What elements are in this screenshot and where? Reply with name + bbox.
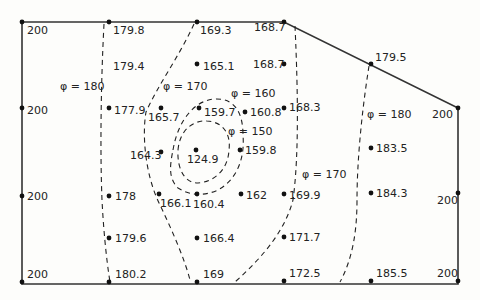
node-dot [369,62,374,67]
node-value-label: 178 [115,190,136,203]
node-dot [159,106,164,111]
node-dot [369,191,374,196]
contour-label: φ = 150 [228,125,272,138]
contour-label: φ = 170 [163,80,207,93]
node-value-label: 169.3 [200,24,232,37]
node-dot [195,236,200,241]
node-value-label: 169 [203,268,224,281]
node-dot [20,194,25,199]
node-dot [282,192,287,197]
node-value-label: 177.9 [114,104,146,117]
node-dot [238,148,243,153]
node-value-label: 164.3 [130,149,162,162]
node-value-label: 168.3 [289,101,321,114]
node-dot [20,280,25,285]
contour-label: φ = 180 [60,80,104,93]
node-dot [107,106,112,111]
node-dot [107,236,112,241]
node-dot [239,192,244,197]
node-dot [282,106,287,111]
node-value-label: 179.4 [113,60,145,73]
node-value-label: 179.5 [375,51,407,64]
node-dot [20,20,25,25]
node-dot [282,235,287,240]
node-dot [243,110,248,115]
node-dot [195,280,200,285]
node-dot [369,279,374,284]
node-dot [456,106,461,111]
node-value-label: 200 [437,194,458,207]
node-value-label: 200 [437,267,458,280]
node-dot [197,106,202,111]
node-value-label: 165.1 [203,60,235,73]
grid-nodes: 200179.8169.3168.7179.5200179.4165.1168.… [20,20,461,285]
node-value-label: 200 [432,108,453,121]
node-value-label: 169.9 [289,189,321,202]
node-dot [107,194,112,199]
node-value-label: 200 [27,268,48,281]
node-value-label: 160.4 [193,198,225,211]
node-dot [369,146,374,151]
node-value-label: 162 [246,189,267,202]
node-value-label: 179.8 [113,24,145,37]
node-value-label: 185.5 [376,267,408,280]
node-value-label: 200 [27,104,48,117]
node-value-label: 168.7 [254,21,286,34]
node-value-label: 184.3 [376,187,408,200]
node-dot [195,62,200,67]
contour-label: φ = 180 [367,108,411,121]
node-value-label: 165.7 [148,111,180,124]
node-dot [282,279,287,284]
node-value-label: 200 [27,190,48,203]
node-value-label: 168.7 [253,58,285,71]
node-value-label: 124.9 [187,153,219,166]
node-value-label: 180.2 [115,268,147,281]
contour-label: φ = 160 [231,87,275,100]
node-value-label: 179.6 [115,232,147,245]
node-value-label: 172.5 [289,267,321,280]
contour-label: φ = 170 [302,168,346,181]
node-value-label: 159.7 [204,106,236,119]
potential-field-diagram: φ = 180φ = 170φ = 160φ = 150φ = 170φ = 1… [0,0,480,300]
node-dot [157,192,162,197]
node-dot [20,106,25,111]
contour-line [178,121,229,183]
node-dot [107,280,112,285]
node-value-label: 200 [27,24,48,37]
node-value-label: 166.4 [203,232,235,245]
node-dot [107,20,112,25]
node-value-label: 159.8 [245,144,277,157]
node-value-label: 171.7 [289,231,321,244]
node-value-label: 160.8 [250,106,282,119]
node-value-label: 166.1 [160,197,192,210]
node-dot [195,20,200,25]
node-value-label: 183.5 [376,142,408,155]
node-dot [194,148,199,153]
node-dot [195,192,200,197]
contour-line [101,24,110,282]
